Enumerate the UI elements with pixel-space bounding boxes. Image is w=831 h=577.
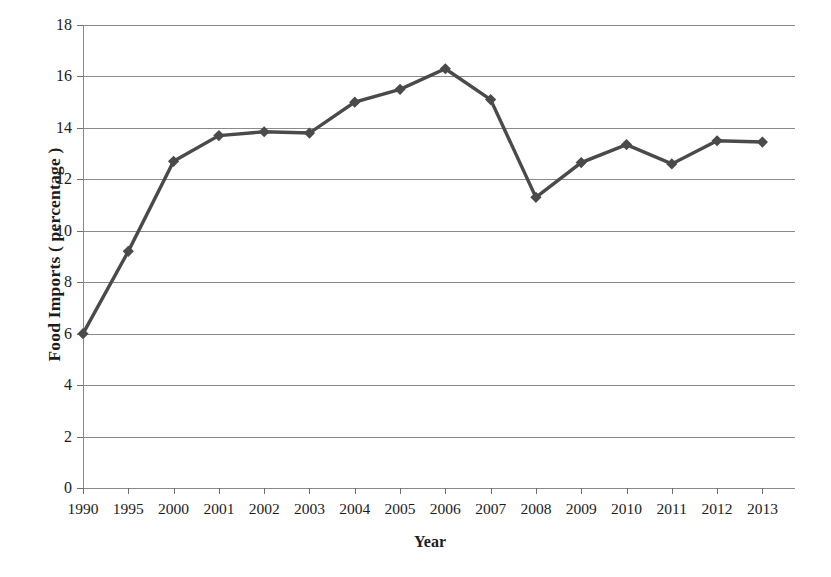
data-point-marker [757,136,768,147]
x-tick-mark [83,488,84,494]
x-tick-label: 2011 [657,501,687,517]
x-tick-label: 2005 [385,501,416,517]
data-point-marker [666,158,677,169]
x-tick-mark [627,488,628,494]
x-tick-label: 2012 [702,501,733,517]
x-tick-mark [128,488,129,494]
y-tick-label: 4 [64,377,72,393]
x-tick-mark [536,488,537,494]
y-tick-label: 2 [64,429,72,445]
data-point-marker [711,135,722,146]
y-tick-label: 18 [56,17,72,33]
data-series-food-imports [83,25,795,488]
x-tick-label: 2010 [611,501,642,517]
y-tick-label: 14 [56,120,72,136]
x-tick-mark [445,488,446,494]
x-tick-mark [219,488,220,494]
x-tick-label: 2000 [158,501,189,517]
x-tick-mark [581,488,582,494]
data-point-marker [259,126,270,137]
line-chart: Food Imports ( percentage ) 024681012141… [0,0,831,577]
x-tick-mark [309,488,310,494]
x-tick-mark [355,488,356,494]
x-axis-title: Year [0,533,831,551]
x-tick-mark [174,488,175,494]
y-tick-label: 12 [56,171,72,187]
y-tick-label: 0 [64,480,72,496]
x-tick-label: 2013 [747,501,778,517]
x-tick-label: 2002 [249,501,280,517]
x-tick-label: 2003 [294,501,325,517]
x-tick-label: 1995 [113,501,144,517]
y-axis-title: Food Imports ( percentage ) [44,105,65,405]
data-point-marker [621,139,632,150]
x-tick-mark [264,488,265,494]
y-tick-label: 6 [64,326,72,342]
x-tick-label: 2001 [203,501,234,517]
x-tick-mark [400,488,401,494]
gridline [83,488,795,489]
x-tick-label: 2004 [339,501,370,517]
x-tick-label: 1990 [68,501,99,517]
x-tick-mark [717,488,718,494]
plot-area: 024681012141618 199019952000200120022003… [83,25,795,488]
series-line [83,69,762,334]
y-tick-label: 16 [56,68,72,84]
y-tick-label: 8 [64,274,72,290]
series-markers [77,63,768,339]
x-tick-label: 2009 [566,501,597,517]
x-tick-label: 2008 [520,501,551,517]
data-point-marker [394,84,405,95]
x-tick-label: 2007 [475,501,506,517]
x-tick-label: 2006 [430,501,461,517]
y-tick-label: 10 [56,223,72,239]
x-tick-mark [672,488,673,494]
x-tick-mark [491,488,492,494]
x-tick-mark [762,488,763,494]
